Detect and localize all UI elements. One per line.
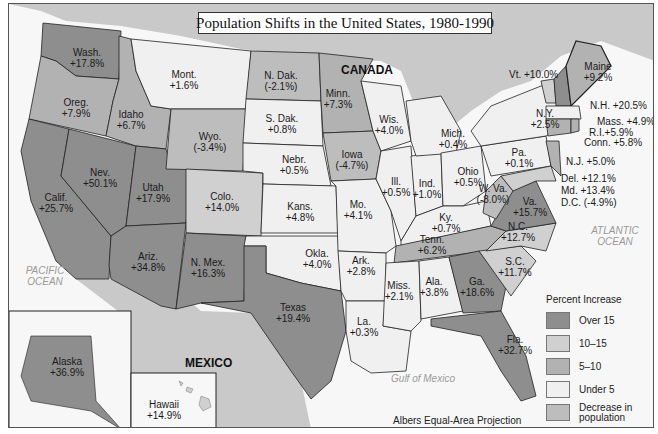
legend-swatch <box>546 335 570 352</box>
legend-item-decrease: Decrease in population <box>546 401 654 424</box>
label-wyo: Wyo.(-3.4%) <box>194 131 227 153</box>
label-wis: Wis.+4.0% <box>375 114 404 136</box>
label-wash: Wash.+17.8% <box>70 47 104 69</box>
label-hawaii: Hawaii+14.9% <box>147 399 181 421</box>
ocean-label-gulf: Gulf of Mexico <box>391 373 455 384</box>
label-ind: Ind.+1.0% <box>413 178 442 200</box>
map-title: Population Shifts in the United States, … <box>198 12 492 34</box>
label-vt: Vt. +10.0% <box>509 69 558 80</box>
label-la: La.+0.3% <box>350 316 379 338</box>
country-label-canada: CANADA <box>341 63 393 77</box>
label-texas: Texas+19.4% <box>276 302 310 324</box>
legend-item-under-5: Under 5 <box>546 378 654 401</box>
map-frame: Population Shifts in the United States, … <box>8 3 654 428</box>
legend: Percent Increase Over 15 10–15 5–10 Unde… <box>546 294 654 424</box>
ocean-label-pacific: PACIFIC OCEAN <box>26 265 65 287</box>
label-nebr: Nebr.+0.5% <box>280 154 309 176</box>
label-ill: Ill.+0.5% <box>382 176 411 198</box>
label-okla: Okla.+4.0% <box>303 248 332 270</box>
legend-swatch <box>546 381 570 398</box>
label-conn: Conn. +5.8% <box>584 137 642 148</box>
legend-title: Percent Increase <box>546 294 654 305</box>
label-wva: W. Va.(-8.0%) <box>477 183 510 205</box>
legend-item-5-10: 5–10 <box>546 355 654 378</box>
label-sc: S.C.+11.7% <box>498 256 531 278</box>
label-del: Del. +12.1% <box>561 173 616 184</box>
label-ny: N.Y.+2.5% <box>531 108 560 130</box>
label-kans: Kans.+4.8% <box>286 201 315 223</box>
label-fla: Fla.+32.7% <box>498 334 532 356</box>
label-miss: Miss.+2.1% <box>385 280 414 302</box>
legend-swatch <box>546 312 570 329</box>
label-mich: Mich.+0.4% <box>439 128 468 150</box>
legend-item-over-15: Over 15 <box>546 309 654 332</box>
label-calif: Calif.+25.7% <box>39 192 73 214</box>
label-mo: Mo.+4.1% <box>344 199 373 221</box>
label-ky: Ky.+0.7% <box>432 212 461 234</box>
label-utah: Utah+17.9% <box>136 182 170 204</box>
projection-note: Albers Equal-Area Projection <box>393 415 521 426</box>
state-ri <box>571 119 579 133</box>
label-ark: Ark.+2.8% <box>347 255 376 277</box>
label-pa: Pa.+0.1% <box>505 147 534 169</box>
label-dc: D.C. (-4.9%) <box>561 197 617 208</box>
label-minn: Minn.+7.3% <box>324 88 353 110</box>
label-maine: Maine+9.2% <box>584 61 613 83</box>
label-nj: N.J. +5.0% <box>566 156 615 167</box>
label-mont: Mont.+1.6% <box>170 69 199 91</box>
label-md: Md. +13.4% <box>561 185 615 196</box>
legend-item-10-15: 10–15 <box>546 332 654 355</box>
label-va: Va.+15.7% <box>513 196 547 218</box>
label-ga: Ga.+18.6% <box>460 276 494 298</box>
label-iowa: Iowa(-4.7%) <box>336 149 369 171</box>
label-idaho: Idaho+6.7% <box>117 109 146 131</box>
label-ariz: Ariz.+34.8% <box>131 251 165 273</box>
label-nh: N.H. +20.5% <box>590 100 647 111</box>
label-nmex: N. Mex.+16.3% <box>191 257 225 279</box>
label-alaska: Alaska+36.9% <box>50 356 84 378</box>
label-oreg: Oreg.+7.9% <box>62 97 91 119</box>
label-ala: Ala.+3.8% <box>420 276 449 298</box>
legend-swatch <box>546 404 570 421</box>
label-nc: N.C.+12.7% <box>501 221 535 243</box>
label-sdak: S. Dak.+0.8% <box>266 113 299 135</box>
label-nev: Nev.+50.1% <box>83 167 117 189</box>
label-mass: Mass. +4.9% <box>597 116 654 127</box>
ocean-label-atlantic: ATLANTIC OCEAN <box>591 225 639 247</box>
label-colo: Colo.+14.0% <box>205 191 239 213</box>
legend-swatch <box>546 358 570 375</box>
label-ndak: N. Dak.(-2.1%) <box>264 70 297 92</box>
label-tenn: Tenn.+6.2% <box>418 234 447 256</box>
country-label-mexico: MEXICO <box>185 356 232 370</box>
